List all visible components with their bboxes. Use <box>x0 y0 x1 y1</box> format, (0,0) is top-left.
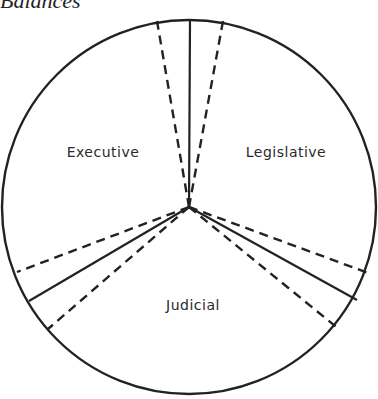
divider-exec-legis <box>189 20 190 207</box>
divider-exec-judicial <box>29 207 189 301</box>
label-executive: Executive <box>67 144 140 160</box>
overlap-line <box>17 207 189 272</box>
overlap-line <box>157 21 189 207</box>
overlap-line <box>189 21 223 207</box>
checks-balances-diagram: Executive Legislative Judicial <box>0 0 378 399</box>
divider-legis-judicial <box>189 207 357 300</box>
label-judicial: Judicial <box>165 297 220 313</box>
overlap-line <box>189 207 371 274</box>
label-legislative: Legislative <box>246 144 326 160</box>
dashed-dividers <box>17 21 371 330</box>
